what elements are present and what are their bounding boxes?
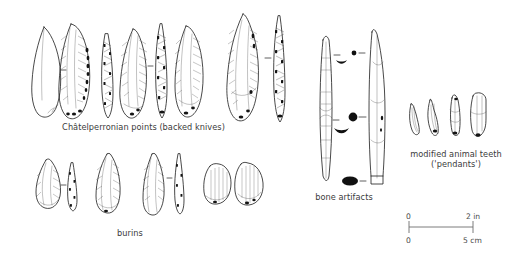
- point-5-profile: [156, 24, 167, 118]
- caption-teeth-line1: modified animal teeth: [410, 149, 502, 159]
- burin-3: [143, 153, 164, 215]
- bone-crescent-2: [334, 128, 349, 133]
- scale-zero-bottom: 0: [406, 236, 411, 245]
- bone-cross-section-small: [352, 51, 357, 56]
- scale-centimeters-label: 5 cm: [463, 236, 482, 245]
- burin-2: [96, 153, 120, 213]
- point-1-face: [32, 27, 61, 117]
- burin-1: [36, 159, 61, 208]
- point-4-face: [120, 29, 147, 118]
- tooth-pendant-3: [450, 95, 460, 136]
- tooth-pendant-1: [410, 104, 420, 135]
- caption-bone-artifacts: bone artifacts: [288, 192, 400, 202]
- bone-cross-section-large: [342, 176, 358, 185]
- bone-artifact-1: [320, 36, 332, 180]
- point-7-face: [227, 14, 259, 121]
- burin-4: [204, 164, 231, 205]
- caption-chatelperronian-points: Châtelperronian points (backed knives): [0, 122, 287, 132]
- bone-crescent-1: [336, 60, 347, 64]
- artifact-plate: Châtelperronian points (backed knives) b…: [0, 0, 521, 271]
- tooth-pendant-4: [471, 93, 486, 137]
- point-2-face: [59, 24, 90, 119]
- scale-bar: [409, 221, 473, 233]
- scale-inches-label: 2 in: [466, 212, 480, 221]
- scale-zero-top: 0: [406, 212, 411, 221]
- point-8-profile: [274, 16, 285, 122]
- burin-5: [235, 162, 263, 205]
- caption-teeth-line2: ('pendants'): [431, 159, 481, 169]
- caption-modified-animal-teeth: modified animal teeth ('pendants'): [395, 149, 517, 169]
- tooth-pendant-2: [428, 99, 438, 135]
- point-6-face: [175, 26, 203, 117]
- point-3-profile: [102, 34, 113, 118]
- caption-burins: burins: [60, 228, 200, 238]
- bone-cross-section-medium: [349, 113, 358, 122]
- bone-artifact-2: [369, 30, 385, 184]
- burin-3-profile: [175, 154, 184, 214]
- burin-1-profile: [68, 163, 77, 211]
